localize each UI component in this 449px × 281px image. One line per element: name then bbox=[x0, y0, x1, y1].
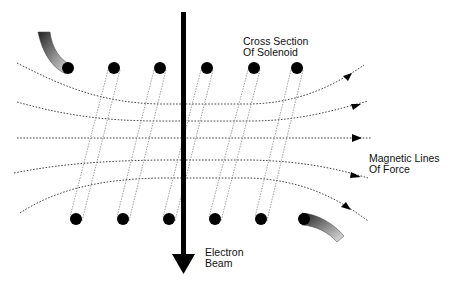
electron-beam-label: Electron Beam bbox=[205, 247, 244, 269]
solenoid-windings bbox=[70, 70, 303, 221]
cross-section-label: Cross Section Of Solenoid bbox=[243, 36, 308, 58]
conductor-dot bbox=[163, 213, 175, 225]
field-line-4 bbox=[14, 160, 368, 178]
field-arrowheads bbox=[341, 73, 362, 210]
arrow-icon bbox=[351, 104, 361, 110]
magnetic-field-lines bbox=[14, 63, 372, 221]
solenoid-diagram bbox=[0, 0, 449, 281]
beam-arrowhead-icon bbox=[172, 254, 195, 274]
magnetic-lines-label: Magnetic Lines Of Force bbox=[369, 153, 440, 175]
conductor-dot bbox=[154, 62, 166, 74]
conductor-dot bbox=[117, 213, 129, 225]
conductor-dot bbox=[255, 213, 267, 225]
conductor-dot bbox=[70, 213, 82, 225]
cross-section-label-line2: Of Solenoid bbox=[243, 47, 308, 58]
conductor-dot bbox=[108, 62, 120, 74]
beam-shaft bbox=[181, 12, 186, 256]
conductor-dot bbox=[298, 213, 310, 225]
conductor-dot bbox=[201, 62, 213, 74]
conductor-dot bbox=[291, 62, 303, 74]
arrow-icon bbox=[352, 134, 362, 142]
arrow-icon bbox=[350, 172, 361, 178]
conductor-dot bbox=[62, 62, 74, 74]
conductor-dot bbox=[248, 62, 260, 74]
magnetic-lines-label-line2: Of Force bbox=[369, 164, 440, 175]
bottom-conductors bbox=[70, 213, 310, 225]
electron-beam-arrow bbox=[172, 12, 195, 274]
arrow-icon bbox=[341, 202, 351, 210]
conductor-dot bbox=[209, 213, 221, 225]
electron-beam-label-line2: Beam bbox=[205, 258, 244, 269]
arrow-icon bbox=[343, 73, 352, 81]
